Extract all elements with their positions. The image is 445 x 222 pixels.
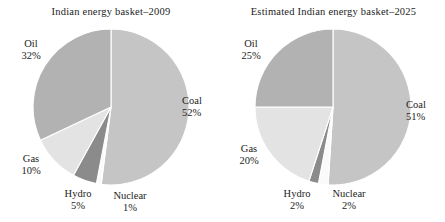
slice-label-oil-2009-pct: 32% bbox=[10, 50, 52, 62]
slice-label-hydro-2009-pct: 5% bbox=[54, 200, 102, 212]
pie-slice-coal bbox=[101, 29, 189, 185]
slice-label-gas-2025-pct: 20% bbox=[227, 155, 271, 167]
slice-label-nuclear-2025-pct: 2% bbox=[321, 200, 377, 212]
slice-label-nuclear-2025: Nuclear 2% bbox=[321, 188, 377, 212]
pie-area-2009: Oil 32% Coal 52% Gas 10% Hydro 5% Nuclea… bbox=[0, 0, 222, 222]
slice-label-coal-2009-name: Coal bbox=[182, 95, 222, 107]
pie-chart-figure: Indian energy basket–2009 Oil 32% Coal 5… bbox=[0, 0, 445, 222]
slice-label-gas-2025-name: Gas bbox=[227, 143, 271, 155]
slice-label-oil-2009-name: Oil bbox=[10, 38, 52, 50]
slice-label-coal-2025: Coal 51% bbox=[406, 99, 445, 123]
slice-label-oil-2009: Oil 32% bbox=[10, 38, 52, 62]
slice-label-hydro-2009: Hydro 5% bbox=[54, 188, 102, 212]
slice-label-nuclear-2025-name: Nuclear bbox=[321, 188, 377, 200]
slice-label-nuclear-2009-name: Nuclear bbox=[102, 190, 158, 202]
slice-label-nuclear-2009-pct: 1% bbox=[102, 202, 158, 214]
slice-label-coal-2025-name: Coal bbox=[406, 99, 445, 111]
slice-label-hydro-2025-pct: 2% bbox=[273, 200, 321, 212]
pie-area-2025: Oil 25% Coal 51% Gas 20% Hydro 2% Nuclea… bbox=[222, 0, 445, 222]
slice-label-coal-2009: Coal 52% bbox=[182, 95, 222, 119]
slice-label-nuclear-2009: Nuclear 1% bbox=[102, 190, 158, 214]
chart-panel-2009: Indian energy basket–2009 Oil 32% Coal 5… bbox=[0, 0, 222, 222]
pie-svg-2009 bbox=[31, 27, 191, 187]
slice-label-oil-2025-pct: 25% bbox=[230, 50, 272, 62]
slice-label-gas-2025: Gas 20% bbox=[227, 143, 271, 167]
slice-label-hydro-2025: Hydro 2% bbox=[273, 188, 321, 212]
pie-slice-coal bbox=[328, 29, 411, 185]
slice-label-coal-2025-pct: 51% bbox=[406, 111, 445, 123]
slice-label-gas-2009-pct: 10% bbox=[9, 165, 53, 177]
slice-label-hydro-2025-name: Hydro bbox=[273, 188, 321, 200]
slice-label-gas-2009: Gas 10% bbox=[9, 153, 53, 177]
slice-label-oil-2025-name: Oil bbox=[230, 38, 272, 50]
slice-label-gas-2009-name: Gas bbox=[9, 153, 53, 165]
slice-label-coal-2009-pct: 52% bbox=[182, 107, 222, 119]
chart-panel-2025: Estimated Indian energy basket–2025 Oil … bbox=[222, 0, 445, 222]
slice-label-oil-2025: Oil 25% bbox=[230, 38, 272, 62]
slice-label-hydro-2009-name: Hydro bbox=[54, 188, 102, 200]
pie-svg-2025 bbox=[253, 27, 413, 187]
